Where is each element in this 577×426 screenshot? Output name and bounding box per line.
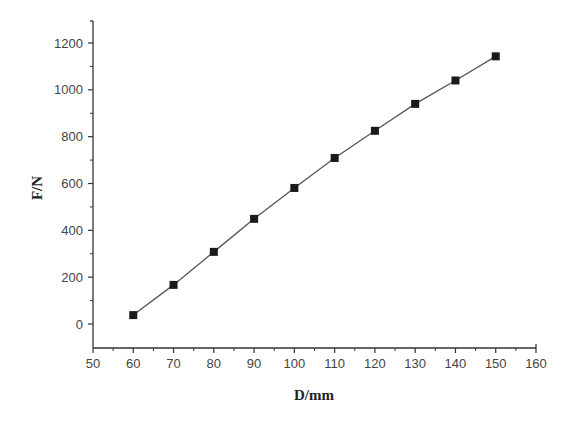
y-tick-label: 1000: [54, 82, 83, 97]
x-tick-label: 100: [284, 356, 306, 371]
x-tick-label: 70: [166, 356, 180, 371]
data-point-square-marker: [290, 184, 298, 192]
axes: [90, 21, 536, 348]
x-tick-label: 50: [86, 356, 100, 371]
y-axis-ticks: 020040060080010001200: [54, 36, 93, 332]
x-tick-label: 130: [404, 356, 426, 371]
x-tick-label: 140: [445, 356, 467, 371]
data-point-square-marker: [411, 100, 419, 108]
series-line: [133, 56, 495, 315]
y-axis-title: F/N: [29, 176, 45, 200]
y-tick-label: 0: [76, 317, 83, 332]
x-tick-label: 160: [525, 356, 547, 371]
line-chart-svg: 020040060080010001200 506070809010011012…: [0, 0, 577, 426]
x-tick-label: 120: [364, 356, 386, 371]
y-tick-label: 200: [61, 270, 83, 285]
data-point-square-marker: [170, 281, 178, 289]
chart: 020040060080010001200 506070809010011012…: [0, 0, 577, 426]
data-point-square-marker: [451, 76, 459, 84]
x-axis-ticks: 5060708090100110120130140150160: [86, 348, 547, 371]
data-series: [129, 52, 499, 319]
data-point-square-marker: [210, 248, 218, 256]
x-tick-label: 110: [324, 356, 345, 371]
data-point-square-marker: [331, 154, 339, 162]
data-point-square-marker: [371, 127, 379, 135]
y-tick-label: 1200: [54, 36, 83, 51]
data-point-square-marker: [129, 311, 137, 319]
x-tick-label: 150: [485, 356, 507, 371]
y-tick-label: 400: [61, 223, 83, 238]
data-point-square-marker: [492, 52, 500, 60]
x-axis-title: D/mm: [294, 387, 334, 403]
x-tick-label: 90: [247, 356, 261, 371]
y-tick-label: 600: [61, 176, 83, 191]
x-tick-label: 80: [207, 356, 221, 371]
data-point-square-marker: [250, 215, 258, 223]
y-tick-label: 800: [61, 129, 83, 144]
x-tick-label: 60: [126, 356, 140, 371]
